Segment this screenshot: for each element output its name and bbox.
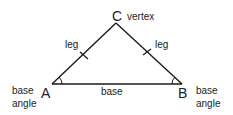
isosceles-triangle-diagram: C vertex leg leg A B base base angle bas… (0, 0, 233, 115)
right-base-angle-label-line2: angle (196, 98, 220, 109)
angle-a-arc (59, 77, 62, 84)
left-leg-label: leg (65, 39, 78, 50)
vertex-b-label: B (178, 86, 187, 100)
angle-b-arc (172, 77, 175, 84)
left-base-angle-label-line1: base (12, 85, 34, 96)
vertex-label: vertex (127, 11, 154, 22)
left-leg-line (52, 23, 116, 84)
left-base-angle-label-line2: angle (12, 98, 36, 109)
vertex-a-label: A (41, 86, 50, 100)
right-leg-label: leg (155, 39, 168, 50)
base-label: base (101, 86, 123, 97)
right-leg-line (116, 23, 182, 84)
right-base-angle-label-line1: base (196, 85, 218, 96)
vertex-c-label: C (112, 9, 122, 23)
